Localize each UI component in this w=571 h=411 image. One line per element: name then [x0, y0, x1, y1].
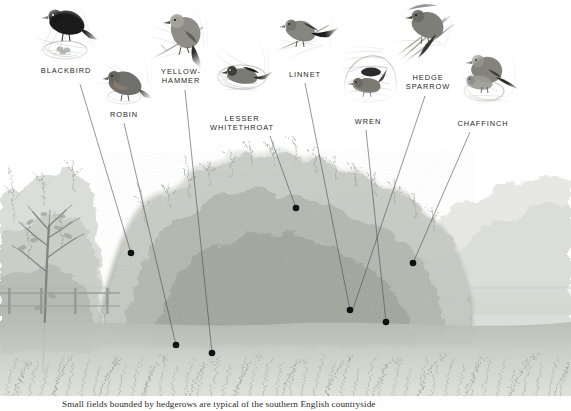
label-wren: WREN: [355, 118, 381, 127]
vignette-chaffinch: [454, 43, 524, 113]
vignette-blackbird: [29, 0, 101, 70]
label-lesser-whitethroat: LESSER WHITETHROAT: [210, 115, 274, 132]
label-hedge-sparrow: HEDGE SPARROW: [406, 74, 450, 91]
illustration-plate: BLACKBIRD ROBIN YELLOW- HAMMER LESSER WH…: [0, 0, 571, 411]
label-blackbird: BLACKBIRD: [41, 67, 91, 76]
label-chaffinch: CHAFFINCH: [457, 120, 508, 129]
vignette-linnet: [271, 0, 341, 69]
vignette-lesser-whitethroat: [207, 33, 277, 103]
plate-caption: Small fields bounded by hedgerows are ty…: [62, 399, 532, 409]
vignette-hedge-sparrow: [388, 0, 460, 68]
label-robin: ROBIN: [110, 111, 138, 120]
label-linnet: LINNET: [289, 71, 321, 80]
label-yellowhammer: YELLOW- HAMMER: [161, 68, 201, 85]
main-hedge: [95, 136, 475, 350]
